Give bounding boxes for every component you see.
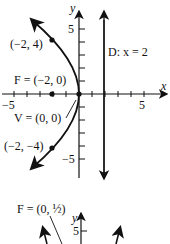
vertex-point xyxy=(76,91,81,96)
x-tick-label-5: 5 xyxy=(139,98,145,112)
parabola-figure: y x 5 −5 −5 5 (−2, 4) (−2, −4) F = (−2, … xyxy=(0,0,170,244)
point-top-label: (−2, 4) xyxy=(10,37,43,51)
parabola-left-arm xyxy=(43,228,47,244)
y-axis-label-2: y xyxy=(71,211,78,225)
point-bottom-label: (−2, −4) xyxy=(4,139,44,153)
point-top xyxy=(49,37,54,42)
parabola-right-arm xyxy=(116,228,120,244)
point-bottom xyxy=(49,145,54,150)
y-axis-label: y xyxy=(69,1,76,15)
y-tick-label-5-fig2: 5 xyxy=(73,224,79,238)
figure-2: y 5 F = (0, ½) xyxy=(17,202,120,244)
y-tick-label-5: 5 xyxy=(68,22,74,36)
vertex-label: V = (0, 0) xyxy=(14,111,61,125)
x-tick-label-neg5: −5 xyxy=(2,98,15,112)
figure-1: y x 5 −5 −5 5 (−2, 4) (−2, −4) F = (−2, … xyxy=(2,1,167,178)
focus-label-2: F = (0, ½) xyxy=(17,202,65,216)
directrix-label: D: x = 2 xyxy=(108,45,148,59)
y-tick-label-neg5: −5 xyxy=(62,152,75,166)
focus-point xyxy=(49,91,54,96)
focus-label: F = (−2, 0) xyxy=(14,73,66,87)
x-axis-label: x xyxy=(160,79,167,93)
